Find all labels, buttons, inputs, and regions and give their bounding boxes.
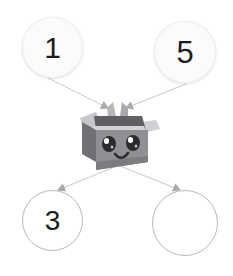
box-eye-left-icon [102, 136, 116, 152]
number-circle-bottom-left-label: 3 [45, 207, 61, 235]
number-circle-top-right-label: 5 [176, 37, 193, 68]
number-circle-bottom-left[interactable]: 3 [22, 190, 83, 251]
box-eye-right-icon [126, 135, 140, 151]
number-circle-top-left-label: 1 [44, 33, 61, 63]
diagram-canvas: 1 5 3 [0, 0, 233, 276]
number-circle-bottom-right[interactable] [152, 190, 218, 256]
number-circle-top-right[interactable]: 5 [154, 21, 216, 83]
number-circle-top-left[interactable]: 1 [22, 17, 83, 78]
box-back-flaps-icon [107, 102, 128, 116]
open-box-with-face-icon [76, 100, 160, 175]
